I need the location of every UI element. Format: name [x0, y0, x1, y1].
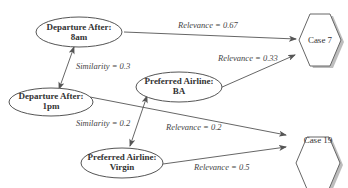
- relevance-label-ba-case7: Relevance = 0.33: [217, 53, 278, 63]
- edge-dep1-case19: Relevance = 0.2: [90, 97, 286, 135]
- node-preferred-airline-virgin: Preferred Airline: Virgin: [81, 148, 163, 178]
- node-departure-1pm: Departure After: 1pm: [9, 88, 93, 116]
- similarity-label-ba-virgin: Similarity = 0.2: [76, 118, 131, 128]
- node-preferred-airline-virgin-line2: Virgin: [110, 162, 135, 172]
- node-departure-8am: Departure After: 8am: [36, 17, 122, 47]
- node-departure-1pm-line2: 1pm: [42, 101, 60, 111]
- node-departure-1pm-line1: Departure After:: [18, 91, 83, 101]
- similarity-label-dep8-dep1: Similarity = 0.3: [76, 61, 130, 71]
- relevance-label-dep8-case7: Relevance = 0.67: [177, 20, 239, 30]
- case-19-label: Case 19: [304, 135, 333, 145]
- node-preferred-airline-ba: Preferred Airline: BA: [136, 72, 222, 102]
- case-7-label: Case 7: [308, 35, 333, 45]
- node-preferred-airline-ba-line1: Preferred Airline:: [145, 76, 214, 86]
- edge-virgin-case19: Relevance = 0.5: [163, 147, 286, 172]
- node-case-7: Case 7: [299, 14, 344, 68]
- node-departure-8am-line2: 8am: [71, 32, 88, 42]
- relevance-label-virgin-case19: Relevance = 0.5: [193, 162, 250, 172]
- node-preferred-airline-virgin-line1: Preferred Airline:: [88, 152, 157, 162]
- node-case-19: Case 19: [296, 135, 343, 188]
- node-departure-8am-line1: Departure After:: [46, 22, 111, 32]
- edge-dep8-dep1-similarity: Similarity = 0.3: [59, 47, 130, 89]
- edge-dep8-case7: Relevance = 0.67: [124, 20, 296, 39]
- node-preferred-airline-ba-line2: BA: [173, 86, 186, 96]
- relevance-label-dep1-case19: Relevance = 0.2: [165, 122, 222, 132]
- case-relevance-diagram: Relevance = 0.67 Relevance = 0.33 Releva…: [0, 0, 348, 188]
